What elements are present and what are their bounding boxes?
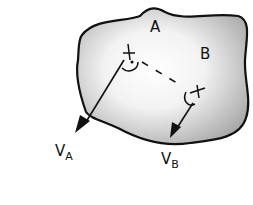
velocity-b-subscript: B [171,158,179,171]
velocity-a-symbol: V [55,142,65,160]
point-a-label: A [150,20,160,35]
velocity-a-label: VA [55,143,73,159]
velocity-b-label: VB [161,151,179,167]
velocity-b-symbol: V [161,150,171,168]
velocity-a-subscript: A [65,150,73,163]
point-b-label: B [200,47,210,62]
rigid-body-outline [77,8,248,144]
rigid-body-diagram [0,0,253,205]
